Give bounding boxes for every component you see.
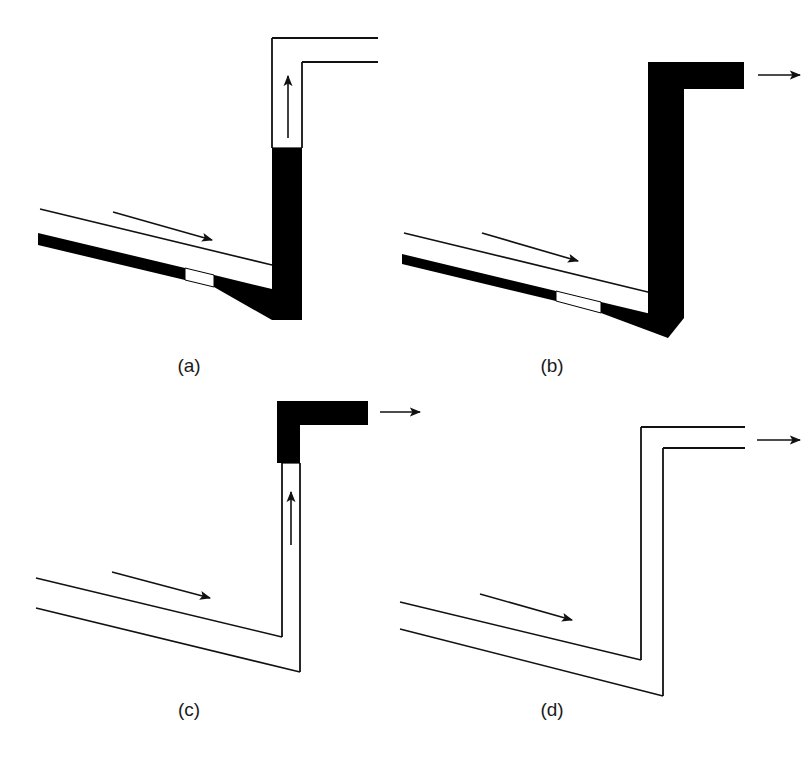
panel-c-inclined-pipe <box>36 578 300 672</box>
panel-a-liquid-stratum-upper <box>38 233 185 280</box>
panel-a-inclined-pipe <box>38 209 272 320</box>
panel-a-inclined-top-wall <box>40 209 272 265</box>
panel-b-inclined-flow-arrow-icon <box>482 233 578 261</box>
panel-a-liquid-stratum-lower <box>214 275 272 320</box>
panel-a-inclined-flow-arrow-icon <box>113 212 212 240</box>
panel-c-inclined-top-wall <box>36 578 282 637</box>
panel-d-inclined-top-wall <box>400 602 641 660</box>
panel-b-elbow-solid <box>648 62 744 120</box>
figure-root: (a) (b) <box>0 0 809 760</box>
panel-c-elbow-solid <box>277 401 368 463</box>
panel-a-caption: (a) <box>177 355 200 376</box>
panel-c-inclined-bottom-wall <box>36 608 300 672</box>
panel-d-inclined-bottom-wall <box>400 629 663 696</box>
panel-a-gas-pocket <box>185 268 214 287</box>
panel-d: (d) <box>400 427 800 720</box>
panel-c: (c) <box>36 401 420 720</box>
panel-b-liquid-stratum <box>402 254 556 301</box>
panel-c-inclined-flow-arrow-icon <box>112 572 210 598</box>
panel-b-gas-pocket <box>556 291 601 313</box>
panel-b-caption: (b) <box>540 355 563 376</box>
panel-c-caption: (c) <box>178 699 200 720</box>
figure-canvas: (a) (b) <box>0 0 809 760</box>
panel-d-caption: (d) <box>540 699 563 720</box>
panel-d-inclined-pipe <box>400 602 663 696</box>
panel-a: (a) <box>38 38 378 376</box>
panel-d-inclined-flow-arrow-icon <box>480 594 572 620</box>
panel-b: (b) <box>402 62 800 376</box>
